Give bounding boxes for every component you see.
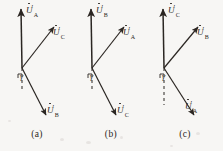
vector-subscript: B <box>205 34 209 40</box>
vector-line-upper-right <box>22 27 54 68</box>
vector-label-lower-right: U′A <box>185 102 198 113</box>
vector-line-lower-right <box>92 68 116 115</box>
vector-subscript: B <box>55 112 59 118</box>
vector-subscript: C <box>176 12 180 18</box>
phasor-panel-a: U′A U′C U′B γ (a) <box>0 0 74 151</box>
vector-label-vertical: U′A <box>26 6 39 17</box>
vector-subscript: B <box>104 12 108 18</box>
vector-line-vertical <box>21 9 22 68</box>
vector-subscript: A <box>131 34 135 40</box>
vector-subscript: A <box>193 108 197 114</box>
angle-label-gamma: γ <box>90 73 93 81</box>
vector-line-vertical <box>91 9 92 68</box>
panel-caption-b: (b) <box>74 129 148 139</box>
vector-label-lower-right: U′B <box>47 106 59 117</box>
scan-speck <box>120 136 123 139</box>
vector-line-upper-right <box>92 27 124 68</box>
angle-label-gamma: γ <box>20 73 23 81</box>
vector-label-vertical: U′C <box>168 6 180 17</box>
scan-speck <box>60 138 64 141</box>
vector-subscript: A <box>34 12 38 18</box>
vector-line-lower-right <box>22 68 46 115</box>
phasor-panel-c: U′C U′B U′A γ (c) <box>148 0 222 151</box>
vector-label-vertical: U′B <box>96 6 108 17</box>
vector-label-upper-right: U′A <box>123 28 136 39</box>
vector-label-upper-right: U′C <box>53 28 65 39</box>
vector-label-lower-right: U′C <box>117 106 129 117</box>
vector-line-vertical <box>163 9 164 68</box>
vector-label-upper-right: U′B <box>197 28 209 39</box>
phasor-panel-b: U′B U′A U′C γ (b) <box>74 0 148 151</box>
vector-line-upper-right <box>164 27 198 68</box>
vector-subscript: C <box>61 34 65 40</box>
scan-speck <box>86 141 91 144</box>
scan-speck <box>8 120 11 122</box>
phasor-figure: U′A U′C U′B γ (a) U′B U′A U′C γ (b) <box>0 0 223 151</box>
scan-speck <box>196 132 200 135</box>
phasor-diagram-a <box>0 0 74 130</box>
scan-speck <box>170 145 173 147</box>
vector-subscript: C <box>125 112 129 118</box>
angle-label-gamma: γ <box>162 73 165 81</box>
panel-caption-c: (c) <box>148 129 222 139</box>
phasor-diagram-b <box>74 0 148 130</box>
